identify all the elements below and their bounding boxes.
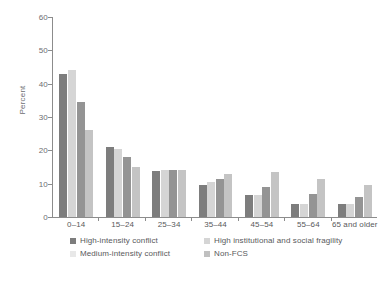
bar-group bbox=[106, 17, 140, 217]
legend-swatch-icon bbox=[70, 238, 76, 244]
x-tick-label: 55–64 bbox=[297, 220, 320, 229]
legend-swatch-icon bbox=[204, 251, 210, 257]
chart-figure: Percent 0102030405060 0–1415–2425–3435–4… bbox=[0, 0, 390, 282]
chart-legend: High-intensity conflict High institution… bbox=[52, 236, 382, 262]
legend-swatch-icon bbox=[70, 251, 76, 257]
bar-group bbox=[338, 17, 372, 217]
y-tick-mark bbox=[48, 184, 52, 185]
x-tick-mark bbox=[191, 217, 192, 221]
bar bbox=[309, 194, 317, 217]
bar-group bbox=[291, 17, 325, 217]
y-tick-mark bbox=[48, 84, 52, 85]
y-tick-mark bbox=[48, 17, 52, 18]
bar bbox=[123, 157, 131, 217]
y-tick-label: 60 bbox=[39, 13, 48, 22]
legend-label: High-intensity conflict bbox=[80, 236, 158, 245]
bar bbox=[254, 195, 262, 217]
y-tick-label: 10 bbox=[39, 179, 48, 188]
bar bbox=[178, 170, 186, 217]
chart-title bbox=[0, 0, 390, 2]
x-tick-mark bbox=[284, 217, 285, 221]
bar bbox=[355, 197, 363, 217]
y-tick-mark bbox=[48, 217, 52, 218]
legend-label: Non-FCS bbox=[214, 249, 248, 258]
y-tick-label: 0 bbox=[43, 213, 48, 222]
legend-item-medium-intensity-conflict: Medium-intensity conflict bbox=[70, 249, 170, 258]
bar-group bbox=[245, 17, 279, 217]
y-tick-label: 40 bbox=[39, 79, 48, 88]
bar bbox=[161, 170, 169, 217]
bar bbox=[207, 182, 215, 217]
x-tick-label: 65 and older bbox=[332, 220, 378, 229]
bar bbox=[169, 170, 177, 217]
y-axis-label: Percent bbox=[18, 86, 27, 115]
bar bbox=[114, 149, 122, 217]
x-tick-label: 0–14 bbox=[67, 220, 85, 229]
x-tick-label: 35–44 bbox=[204, 220, 227, 229]
bar bbox=[106, 147, 114, 217]
bar bbox=[132, 167, 140, 217]
legend-row-1: High-intensity conflict High institution… bbox=[52, 236, 382, 249]
x-tick-mark bbox=[98, 217, 99, 221]
bar bbox=[216, 179, 224, 217]
x-tick-label: 45–54 bbox=[251, 220, 274, 229]
bar bbox=[77, 102, 85, 217]
bar bbox=[68, 70, 76, 217]
legend-label: Medium-intensity conflict bbox=[80, 249, 170, 258]
bar bbox=[152, 171, 160, 217]
y-tick-label: 30 bbox=[39, 113, 48, 122]
bar bbox=[291, 204, 299, 217]
bar bbox=[199, 185, 207, 217]
bar bbox=[338, 204, 346, 217]
y-axis-line bbox=[52, 17, 53, 217]
legend-label: High institutional and social fragility bbox=[214, 236, 342, 245]
x-tick-label: 15–24 bbox=[111, 220, 134, 229]
legend-item-non-fcs: Non-FCS bbox=[204, 249, 248, 258]
y-tick-mark bbox=[48, 50, 52, 51]
bar bbox=[262, 187, 270, 217]
bar-group bbox=[59, 17, 93, 217]
plot-area: 0102030405060 0–1415–2425–3435–4445–5455… bbox=[52, 17, 377, 217]
y-tick-label: 50 bbox=[39, 46, 48, 55]
x-tick-mark bbox=[145, 217, 146, 221]
legend-item-high-intensity-conflict: High-intensity conflict bbox=[70, 236, 158, 245]
bar bbox=[317, 179, 325, 217]
bar bbox=[300, 204, 308, 217]
legend-swatch-icon bbox=[204, 238, 210, 244]
bar bbox=[85, 130, 93, 217]
bar bbox=[364, 185, 372, 217]
y-tick-label: 20 bbox=[39, 146, 48, 155]
x-axis-line bbox=[52, 217, 377, 218]
x-tick-label: 25–34 bbox=[158, 220, 181, 229]
legend-row-2: Medium-intensity conflict Non-FCS bbox=[52, 249, 382, 262]
bar bbox=[245, 195, 253, 217]
x-tick-mark bbox=[238, 217, 239, 221]
legend-item-high-institutional-and-social-fragility: High institutional and social fragility bbox=[204, 236, 342, 245]
bar bbox=[224, 174, 232, 217]
y-tick-mark bbox=[48, 117, 52, 118]
y-tick-mark bbox=[48, 150, 52, 151]
bar bbox=[346, 204, 354, 217]
bar-group bbox=[199, 17, 233, 217]
bar bbox=[271, 172, 279, 217]
bar bbox=[59, 74, 67, 217]
bar-group bbox=[152, 17, 186, 217]
